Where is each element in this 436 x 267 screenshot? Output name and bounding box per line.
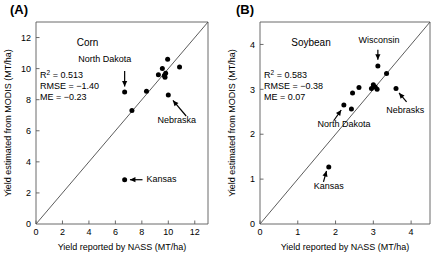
y-tick-label: 6 [26,126,31,136]
data-point [375,87,380,92]
data-point [144,89,149,94]
y-tick-label: 1 [250,174,255,184]
data-point [394,86,399,91]
y-tick-label: 8 [26,95,31,105]
data-point [160,66,165,71]
panel-a-plot: 024681012246810120Yield reported by NASS… [0,0,218,267]
data-point [341,103,346,108]
data-point [177,65,182,70]
panel-b-plot: 0123412340Yield reported by NASS (MT/ha)… [218,0,436,267]
data-point [375,63,380,68]
x-tick-label: 8 [139,227,144,237]
figure-container: (A) 024681012246810120Yield reported by … [0,0,436,267]
data-point [156,72,161,77]
data-point [165,57,170,62]
y-tick-label: 4 [250,40,255,50]
annotation-label: North Dakota [78,54,131,64]
data-point [122,89,127,94]
x-tick-label: 4 [86,227,91,237]
data-point [326,164,331,169]
panel-a-letter: (A) [10,2,28,17]
stat-r-squared: R2 = 0.513 [40,69,83,80]
x-axis-title: Yield reported by NASS (MT/ha) [58,242,187,252]
panel-b-soybean: (B) 0123412340Yield reported by NASS (MT… [218,0,436,267]
series-title: Corn [77,37,99,48]
panel-a-corn: (A) 024681012246810120Yield reported by … [0,0,218,267]
data-point [163,71,168,76]
x-tick-label: 4 [409,227,414,237]
data-point [350,90,355,95]
data-point [384,71,389,76]
annotation-label: Nebraska [158,115,197,125]
data-point [349,107,354,112]
x-tick-label: 0 [257,227,262,237]
x-tick-label: 3 [371,227,376,237]
annotation-label: Kansas [146,174,177,184]
data-point [129,108,134,113]
y-axis-title: Yield estimated from MODIS (MT/ha) [3,49,13,197]
annotation-label: Kansas [314,181,345,191]
annotation-label: Nebrasks [386,105,425,115]
annotation-label: North Dakota [317,119,370,129]
panel-b-letter: (B) [236,2,254,17]
y-tick-label: 4 [26,157,31,167]
annotation-label: Wisconsin [358,35,399,45]
series-title: Soybean [291,37,330,48]
x-tick-label: 6 [113,227,118,237]
y-tick-label: 3 [250,85,255,95]
y-tick-label: 2 [250,129,255,139]
stat-rmse: RMSE = −0.38 [264,81,323,91]
x-axis-title: Yield reported by NASS (MT/ha) [281,242,410,252]
annotation-arrowhead [336,110,341,116]
y-axis-title: Yield estimated from MODIS (MT/ha) [227,49,237,197]
annotation-arrowhead [375,54,380,60]
y-tick-label: 12 [21,33,31,43]
stat-rmse: RMSE = −1.40 [40,81,99,91]
stat-r-squared: R2 = 0.583 [264,69,307,80]
stat-me: ME = 0.07 [264,92,305,102]
data-point [356,85,361,90]
x-tick-label: 12 [190,227,200,237]
x-tick-label: 1 [295,227,300,237]
data-point [166,93,171,98]
annotation-arrowhead [122,81,127,87]
stat-me: ME = −0.23 [40,92,87,102]
y-tick-label: 2 [26,188,31,198]
x-tick-label: 2 [333,227,338,237]
y-tick-label: 10 [21,64,31,74]
y-tick-label-zero: 0 [26,219,31,229]
data-point [122,177,127,182]
x-tick-label: 10 [163,227,173,237]
annotation-arrowhead [130,177,136,182]
y-tick-label-zero: 0 [250,219,255,229]
x-tick-label: 2 [60,227,65,237]
x-tick-label: 0 [33,227,38,237]
